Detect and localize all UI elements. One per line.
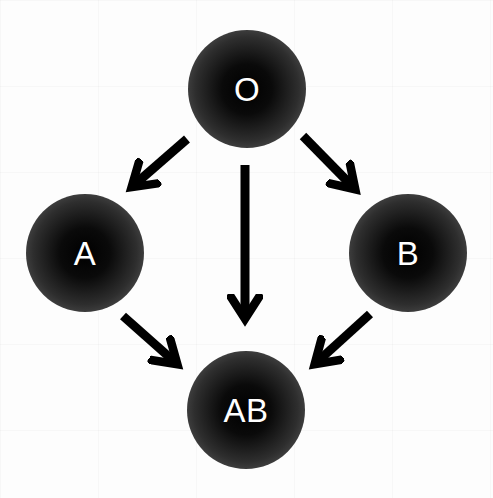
node-a-label: A bbox=[74, 237, 97, 270]
arrow-a-to-ab bbox=[123, 316, 176, 363]
arrow-b-to-ab bbox=[316, 314, 370, 363]
node-ab-label: AB bbox=[223, 394, 268, 427]
arrow-o-to-a bbox=[133, 139, 187, 186]
diagram-canvas: O A B AB bbox=[0, 0, 493, 498]
node-o: O bbox=[188, 30, 306, 148]
arrow-o-to-b bbox=[303, 136, 354, 188]
node-a: A bbox=[26, 194, 144, 312]
node-b-label: B bbox=[397, 237, 420, 270]
node-b: B bbox=[349, 194, 467, 312]
node-o-label: O bbox=[234, 73, 260, 106]
node-ab: AB bbox=[187, 351, 305, 469]
